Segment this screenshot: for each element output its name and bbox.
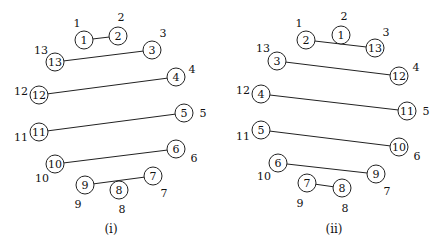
position-label-11: 11 (236, 130, 250, 143)
position-label-6: 6 (191, 152, 198, 165)
position-label-4: 4 (413, 61, 420, 74)
edge-3-12 (286, 62, 390, 75)
edge-10-6 (64, 150, 167, 163)
node-3: 3 (268, 52, 286, 70)
node-label: 13 (48, 56, 62, 69)
position-label-5: 5 (423, 105, 430, 118)
node-label: 3 (274, 55, 281, 68)
diagram-canvas: 12345678910111213 12345678910111213 (i) … (0, 0, 441, 249)
node-2: 2 (109, 27, 127, 45)
position-label-2: 2 (118, 11, 125, 24)
position-label-11: 11 (14, 131, 28, 144)
position-label-7: 7 (161, 187, 168, 200)
node-label: 11 (32, 126, 46, 139)
node-9: 9 (76, 176, 94, 194)
position-label-10: 10 (257, 170, 271, 183)
position-label-1: 1 (296, 17, 303, 30)
node-4: 4 (252, 85, 270, 103)
position-label-6: 6 (414, 150, 421, 163)
node-label: 6 (173, 143, 180, 156)
node-label: 4 (258, 88, 265, 101)
node-5: 5 (175, 104, 193, 122)
node-12: 12 (390, 67, 408, 85)
edge-layer (270, 41, 398, 187)
position-label-3: 3 (160, 27, 167, 40)
position-label-2: 2 (341, 10, 348, 23)
position-label-1: 1 (74, 17, 81, 30)
node-label: 8 (116, 184, 123, 197)
node-layer: 12345678910111213 (30, 27, 193, 199)
node-label: 7 (150, 170, 157, 183)
position-label-8: 8 (342, 202, 349, 215)
node-label: 4 (173, 71, 180, 84)
edge-1-2 (93, 37, 109, 39)
position-label-12: 12 (14, 85, 28, 98)
node-label: 1 (338, 29, 345, 42)
edge-13-3 (64, 51, 143, 61)
node-7: 7 (298, 174, 316, 192)
node-label: 11 (400, 105, 414, 118)
node-7: 7 (144, 167, 162, 185)
node-13: 13 (366, 39, 384, 57)
node-6: 6 (167, 140, 185, 158)
node-12: 12 (30, 86, 48, 104)
edge-7-8 (316, 184, 333, 186)
node-5: 5 (252, 121, 270, 139)
diagram-ii: 21131211109876543 12345678910111213 (ii) (236, 10, 430, 237)
node-layer: 21131211109876543 (252, 26, 416, 197)
node-label: 2 (115, 30, 122, 43)
node-label: 8 (339, 182, 346, 195)
position-label-10: 10 (35, 172, 49, 185)
edge-4-11 (270, 95, 398, 110)
node-11: 11 (30, 123, 48, 141)
node-10: 10 (46, 155, 64, 173)
diagram-caption: (ii) (325, 222, 342, 236)
node-label: 5 (258, 124, 265, 137)
node-2: 2 (297, 31, 315, 49)
position-label-9: 9 (75, 198, 82, 211)
position-label-5: 5 (200, 107, 207, 120)
node-label: 10 (392, 141, 406, 154)
node-8: 8 (333, 179, 351, 197)
position-label-7: 7 (384, 185, 391, 198)
position-label-4: 4 (189, 63, 196, 76)
node-3: 3 (143, 41, 161, 59)
node-13: 13 (46, 53, 64, 71)
node-label: 6 (275, 157, 282, 170)
diagram-i: 12345678910111213 12345678910111213 (i) (14, 11, 207, 237)
edge-6-9 (287, 164, 367, 173)
position-label-9: 9 (297, 197, 304, 210)
node-1: 1 (332, 26, 350, 44)
node-9: 9 (367, 165, 385, 183)
node-label: 12 (392, 70, 406, 83)
node-label: 7 (304, 177, 311, 190)
edge-12-4 (48, 78, 167, 94)
node-10: 10 (390, 138, 408, 156)
node-label: 10 (48, 158, 62, 171)
node-label: 9 (373, 168, 380, 181)
node-label: 9 (82, 179, 89, 192)
edge-layer (48, 37, 175, 184)
position-label-3: 3 (383, 26, 390, 39)
position-label-8: 8 (119, 203, 126, 216)
edge-5-10 (270, 131, 390, 146)
node-label: 13 (368, 42, 382, 55)
position-label-12: 12 (236, 84, 250, 97)
node-label: 3 (149, 44, 156, 57)
edge-11-5 (48, 114, 175, 131)
position-label-13: 13 (256, 42, 270, 55)
node-6: 6 (269, 154, 287, 172)
node-8: 8 (110, 181, 128, 199)
node-11: 11 (398, 102, 416, 120)
position-label-13: 13 (34, 44, 48, 57)
node-label: 12 (32, 89, 46, 102)
node-label: 5 (181, 107, 188, 120)
node-4: 4 (167, 68, 185, 86)
node-1: 1 (75, 31, 93, 49)
diagram-caption: (i) (104, 222, 117, 236)
node-label: 1 (81, 34, 88, 47)
node-label: 2 (303, 34, 310, 47)
